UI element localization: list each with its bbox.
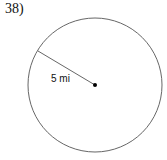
radius-label: 5 mi xyxy=(51,73,70,84)
center-point xyxy=(93,83,97,87)
circle-figure: 5 mi xyxy=(0,0,167,160)
